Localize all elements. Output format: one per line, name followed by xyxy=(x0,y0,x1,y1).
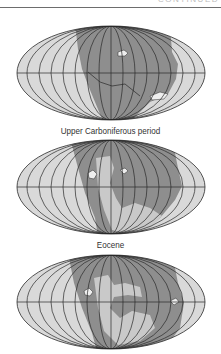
globe-map-carboniferous xyxy=(0,24,221,134)
header-rule xyxy=(0,7,221,8)
map-caption: Eocene xyxy=(17,239,205,250)
globe-map-present xyxy=(0,253,221,354)
running-head: CONTINUED xyxy=(158,0,219,4)
map-caption: Upper Carboniferous period xyxy=(17,125,205,136)
globe-map-eocene xyxy=(0,138,221,248)
